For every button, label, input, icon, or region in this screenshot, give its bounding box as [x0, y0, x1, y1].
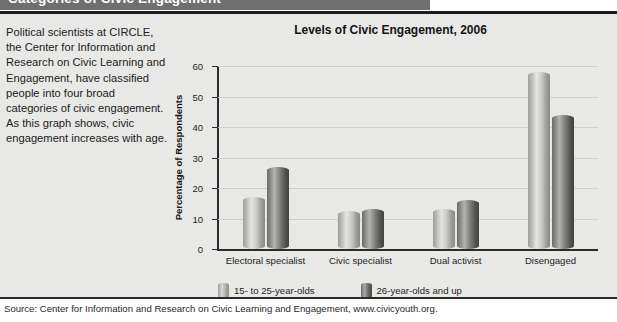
x-axis-label: Electoral specialist: [211, 255, 321, 267]
bar: [457, 200, 479, 249]
chart-title: Levels of Civic Engagement, 2006: [168, 23, 613, 37]
y-tick: 0: [212, 249, 218, 250]
y-tick-label: 60: [192, 61, 203, 72]
figure-panel: Categories of Civic Engagement Political…: [0, 0, 617, 322]
source-note: Source: Center for Information and Resea…: [4, 303, 438, 314]
legend-item[interactable]: 15- to 25-year-olds: [218, 283, 315, 298]
y-axis-title-text: Percentage of Respondents: [174, 95, 185, 221]
y-tick: 60: [212, 66, 218, 67]
legend-label: 26-year-olds and up: [377, 285, 462, 296]
legend-item[interactable]: 26-year-olds and up: [361, 283, 462, 298]
y-tick: 10: [212, 219, 218, 220]
y-tick-label: 40: [192, 122, 203, 133]
header-bar: Categories of Civic Engagement: [0, 0, 430, 10]
plot-area: 0102030405060 Electoral specialistCivic …: [218, 66, 598, 249]
legend-swatch: [218, 283, 229, 298]
description-text: Political scientists at CIRCLE, the Cent…: [6, 25, 168, 147]
bar: [433, 209, 455, 249]
bar: [552, 115, 574, 249]
bar: [338, 211, 360, 249]
y-tick: 20: [212, 188, 218, 189]
bar: [243, 197, 265, 249]
gridline: [218, 66, 598, 67]
y-tick-label: 20: [192, 183, 203, 194]
bar: [362, 209, 384, 249]
x-axis-label: Disengaged: [496, 255, 606, 267]
y-tick: 40: [212, 127, 218, 128]
x-axis-label: Civic specialist: [306, 255, 416, 267]
x-axis-label: Dual activist: [401, 255, 511, 267]
y-tick-label: 10: [192, 213, 203, 224]
y-tick-label: 0: [198, 244, 203, 255]
y-tick-label: 50: [192, 91, 203, 102]
y-tick: 50: [212, 97, 218, 98]
bar-chart: Levels of Civic Engagement, 2006 Percent…: [168, 20, 613, 290]
legend-swatch: [361, 283, 372, 298]
bar: [267, 167, 289, 249]
chart-legend: 15- to 25-year-olds26-year-olds and up: [168, 283, 613, 298]
y-tick: 30: [212, 158, 218, 159]
bar: [528, 72, 550, 249]
y-axis-title: Percentage of Respondents: [172, 66, 186, 249]
source-divider: [0, 297, 617, 299]
x-axis-line: [217, 249, 598, 251]
legend-label: 15- to 25-year-olds: [234, 285, 315, 296]
page-title: Categories of Civic Engagement: [8, 0, 221, 6]
y-tick-label: 30: [192, 152, 203, 163]
